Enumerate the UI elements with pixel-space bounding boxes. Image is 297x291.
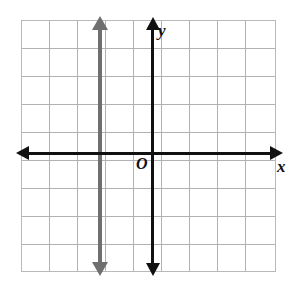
grid-line-vertical	[245, 21, 246, 271]
plotted-line-arrow-up-icon	[92, 16, 108, 30]
grid-line-vertical	[105, 21, 106, 271]
grid-line-horizontal	[22, 76, 275, 77]
grid-line-vertical	[161, 21, 162, 271]
grid-line-vertical	[77, 21, 78, 271]
graph-grid	[21, 20, 276, 272]
grid-line-vertical	[49, 21, 50, 271]
grid-line-horizontal	[22, 104, 275, 105]
x-axis-arrow-left-icon	[16, 146, 29, 160]
grid-line-vertical	[189, 21, 190, 271]
grid-line-horizontal	[22, 132, 275, 133]
coordinate-plane-figure: y x O	[0, 0, 297, 291]
grid-line-vertical	[217, 21, 218, 271]
grid-line-vertical	[133, 21, 134, 271]
plotted-line-x-equals-minus-2	[98, 28, 102, 266]
grid-line-horizontal	[22, 244, 275, 245]
y-axis-arrow-down-icon	[146, 263, 160, 276]
plotted-line-arrow-down-icon	[92, 262, 108, 276]
x-axis-label: x	[277, 158, 286, 175]
y-axis	[151, 28, 154, 266]
grid-line-horizontal	[22, 48, 275, 49]
grid-line-horizontal	[22, 216, 275, 217]
grid-line-horizontal	[22, 188, 275, 189]
y-axis-label: y	[158, 22, 166, 39]
grid-line-horizontal	[22, 160, 275, 161]
origin-label: O	[136, 156, 148, 172]
